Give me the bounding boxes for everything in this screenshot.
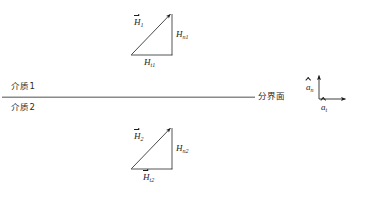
upper-resultant-symbol: H	[134, 18, 141, 27]
tangential-unit-vector-label: at	[321, 103, 327, 113]
lower-tangential-subscript: t2	[150, 177, 155, 183]
lower-tangential-label: Ht2	[143, 173, 154, 183]
tangential-unit-symbol: a	[321, 103, 326, 112]
lower-resultant-label: H2	[134, 132, 144, 142]
medium-2-label: 介质2	[11, 103, 35, 112]
upper-resultant-label: H1	[134, 18, 144, 28]
medium-1-label: 介质1	[11, 82, 35, 91]
upper-tangential-label: Ht1	[144, 58, 155, 68]
unit-vector-axes	[319, 76, 346, 100]
lower-resultant-symbol: H	[134, 132, 141, 141]
normal-unit-symbol: a	[306, 83, 311, 92]
lower-normal-subscript: n2	[183, 148, 189, 154]
lower-normal-label: Hn2	[176, 144, 189, 154]
interface-label: 分界面	[258, 92, 286, 101]
upper-normal-label: Hn1	[176, 30, 189, 40]
normal-unit-vector-label: an	[306, 83, 314, 93]
upper-tangential-subscript: t1	[151, 62, 156, 68]
boundary-condition-diagram: 介质1 介质2 分界面 H1 Hn1 Ht1 H2 Hn2 Ht2 an at	[0, 0, 365, 197]
lower-tangential-symbol: H	[143, 173, 150, 182]
upper-normal-subscript: n1	[183, 34, 189, 40]
